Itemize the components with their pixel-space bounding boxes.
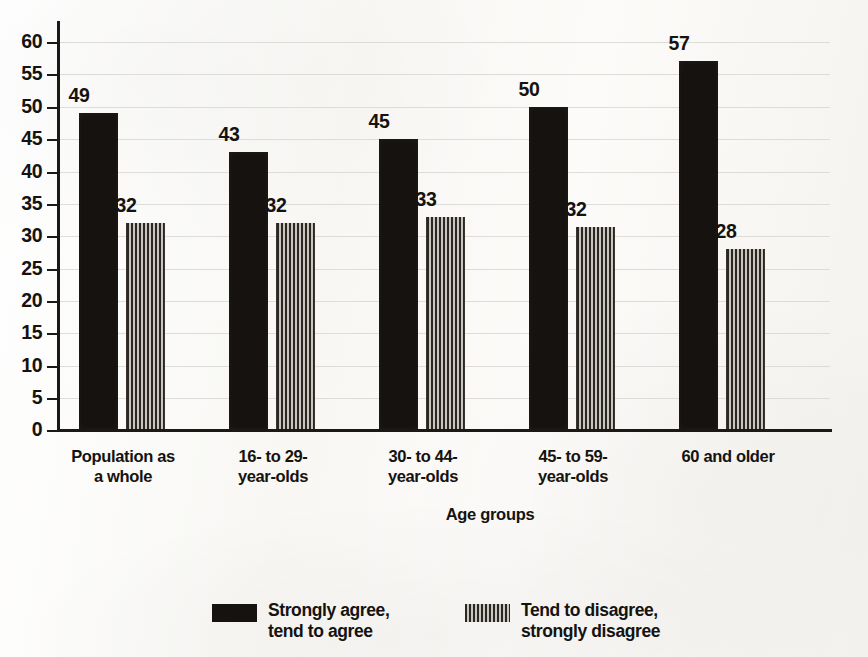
category-label-line2: a whole	[58, 466, 188, 486]
bar-value-g0-series0: 49	[59, 86, 99, 106]
y-tick-label-30: 30	[0, 226, 42, 246]
y-tick-mark-0	[47, 430, 59, 432]
bar-g3-series1[interactable]	[576, 227, 615, 430]
y-tick-mark-20	[47, 301, 59, 303]
legend-item-tend-to-disagree[interactable]: Tend to disagree, strongly disagree	[465, 600, 660, 642]
category-label-line2: year-olds	[358, 466, 488, 486]
category-label-30-to-44: 30- to 44- year-olds	[358, 446, 488, 486]
category-label-population-as-a-whole: Population as a whole	[58, 446, 188, 486]
x-axis-line	[57, 429, 832, 432]
category-label-line2: year-olds	[508, 466, 638, 486]
category-label-line1: 60 and older	[658, 446, 798, 466]
bar-g4-series1[interactable]	[726, 249, 765, 430]
bar-value-g3-series1: 32	[556, 200, 596, 220]
y-tick-label-45: 45	[0, 129, 42, 149]
category-label-line1: 45- to 59-	[508, 446, 638, 466]
bar-value-g2-series1: 33	[406, 190, 446, 210]
gridline-60	[58, 42, 830, 43]
category-label-line1: 16- to 29-	[208, 446, 338, 466]
category-label-16-to-29: 16- to 29- year-olds	[208, 446, 338, 486]
bar-chart: 60 55 50 45 40 35 30 25 20 15 10 5 0 49 …	[0, 0, 868, 657]
y-tick-mark-5	[47, 398, 59, 400]
y-tick-mark-40	[47, 172, 59, 174]
bar-g0-series0[interactable]	[79, 113, 118, 430]
y-axis-line	[57, 21, 60, 431]
y-tick-mark-55	[47, 74, 59, 76]
y-tick-mark-25	[47, 269, 59, 271]
y-tick-mark-60	[47, 42, 59, 44]
x-axis-title: Age groups	[400, 505, 580, 524]
y-tick-label-35: 35	[0, 194, 42, 214]
y-tick-label-55: 55	[0, 64, 42, 84]
bar-value-g1-series0: 43	[209, 125, 249, 145]
category-label-45-to-59: 45- to 59- year-olds	[508, 446, 638, 486]
y-tick-mark-45	[47, 139, 59, 141]
bar-value-g4-series0: 57	[659, 34, 699, 54]
bar-value-g0-series1: 32	[106, 196, 146, 216]
bar-value-g4-series1: 28	[706, 222, 746, 242]
legend-swatch-striped-icon	[465, 604, 510, 622]
y-tick-mark-35	[47, 204, 59, 206]
y-tick-label-5: 5	[0, 388, 42, 408]
y-tick-mark-10	[47, 366, 59, 368]
bar-g3-series0[interactable]	[529, 107, 568, 430]
bar-g1-series1[interactable]	[276, 223, 315, 430]
y-tick-label-10: 10	[0, 356, 42, 376]
legend-swatch-solid-icon	[212, 604, 257, 622]
y-tick-label-20: 20	[0, 291, 42, 311]
bar-g1-series0[interactable]	[229, 152, 268, 430]
bar-g0-series1[interactable]	[126, 223, 165, 430]
chart-legend: Strongly agree, tend to agree Tend to di…	[0, 596, 868, 656]
category-label-line1: Population as	[58, 446, 188, 466]
bar-g2-series1[interactable]	[426, 217, 465, 430]
category-label-line2: year-olds	[208, 466, 338, 486]
bar-g4-series0[interactable]	[679, 61, 718, 430]
bar-value-g1-series1: 32	[256, 196, 296, 216]
legend-item-strongly-agree[interactable]: Strongly agree, tend to agree	[212, 600, 389, 642]
y-tick-mark-50	[47, 107, 59, 109]
y-tick-mark-30	[47, 236, 59, 238]
bar-g2-series0[interactable]	[379, 139, 418, 430]
y-tick-label-40: 40	[0, 162, 42, 182]
y-tick-mark-15	[47, 333, 59, 335]
bar-value-g3-series0: 50	[509, 80, 549, 100]
y-tick-label-60: 60	[0, 32, 42, 52]
bar-value-g2-series0: 45	[359, 112, 399, 132]
category-label-60-and-older: 60 and older	[658, 446, 798, 466]
y-tick-label-25: 25	[0, 259, 42, 279]
y-tick-label-50: 50	[0, 97, 42, 117]
legend-label-strongly-agree: Strongly agree, tend to agree	[268, 600, 389, 642]
category-label-line1: 30- to 44-	[358, 446, 488, 466]
legend-label-tend-to-disagree: Tend to disagree, strongly disagree	[521, 600, 660, 642]
y-tick-label-15: 15	[0, 323, 42, 343]
y-tick-label-0: 0	[0, 420, 42, 440]
